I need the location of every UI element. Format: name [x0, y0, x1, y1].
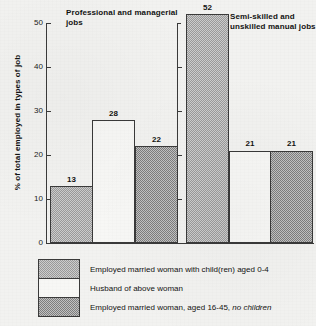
legend-label-3: Employed married woman, aged 16-45, no c… — [90, 303, 271, 312]
y-tick-label-10: 10 — [24, 195, 43, 203]
right-panel-spine — [177, 23, 178, 243]
panel-title-right-line2: unskilled manual jobs — [230, 22, 316, 32]
bar-left-series2 — [92, 120, 135, 243]
bar-right-series1 — [186, 14, 229, 243]
y-tick-50 — [47, 23, 51, 24]
bar-right-series3 — [270, 151, 313, 243]
y-tick-40 — [47, 67, 51, 68]
right-panel-top-cap — [177, 23, 181, 24]
y-tick-label-30: 30 — [24, 107, 43, 115]
legend-label-2: Husband of above woman — [90, 284, 183, 293]
right-tick-20 — [178, 155, 182, 156]
legend-swatch-gray-dither — [38, 259, 80, 279]
legend-label-3-italic: no children — [232, 303, 271, 312]
y-tick-20 — [47, 155, 51, 156]
panel-title-right-line1: Semi-skilled and — [230, 12, 316, 22]
bar-value-left-series2: 28 — [92, 110, 135, 118]
bar-right-series2 — [229, 151, 271, 243]
right-tick-30 — [178, 111, 182, 112]
legend-swatch-dark-dither — [38, 297, 80, 317]
bar-value-right-series3: 21 — [270, 140, 313, 148]
bar-left-series3 — [135, 146, 178, 243]
bar-left-series1 — [50, 186, 93, 243]
y-tick-30 — [47, 111, 51, 112]
right-tick-40 — [178, 67, 182, 68]
y-axis-spine — [46, 23, 47, 243]
bar-value-right-series2: 21 — [229, 140, 271, 148]
y-tick-label-20: 20 — [24, 151, 43, 159]
bar-value-left-series3: 22 — [135, 136, 178, 144]
bar-value-left-series1: 13 — [50, 176, 93, 184]
right-panel-baseline — [177, 243, 314, 244]
bar-value-right-series1: 52 — [186, 4, 229, 12]
left-panel-baseline — [46, 243, 179, 244]
y-tick-label-40: 40 — [24, 63, 43, 71]
figure-root: 50 40 30 20 10 0 % of total employed in … — [0, 0, 316, 326]
legend-label-3-plain: Employed married woman, aged 16-45, — [90, 303, 232, 312]
y-axis-label: % of total employed in types of job — [13, 43, 22, 203]
right-tick-10 — [178, 199, 182, 200]
legend-label-1: Employed married woman with child(ren) a… — [90, 265, 269, 274]
y-tick-label-50: 50 — [24, 19, 43, 27]
y-tick-label-0: 0 — [24, 239, 43, 247]
legend-swatch-white — [38, 278, 80, 298]
